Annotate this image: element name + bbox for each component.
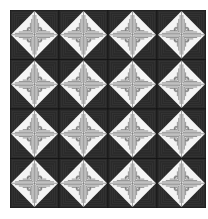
quilt-tiles <box>10 10 206 208</box>
quilt-pattern <box>10 10 206 208</box>
